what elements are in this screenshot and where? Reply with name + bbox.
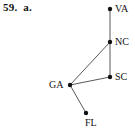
node-layer (68, 7, 112, 115)
node-label-nc: NC (115, 37, 129, 47)
figure-canvas: 59. a. VANCSCGAFL (0, 0, 135, 133)
graph-node-sc (108, 75, 112, 79)
node-label-sc: SC (115, 72, 127, 82)
node-label-fl: FL (85, 118, 97, 128)
graph-node-fl (84, 111, 88, 115)
edge-layer (70, 9, 110, 113)
node-label-ga: GA (49, 80, 63, 90)
state-adjacency-graph (0, 0, 135, 133)
graph-node-ga (68, 83, 72, 87)
graph-node-va (108, 7, 112, 11)
graph-node-nc (108, 40, 112, 44)
node-label-va: VA (115, 4, 128, 14)
graph-edge-ga-fl (70, 85, 86, 113)
